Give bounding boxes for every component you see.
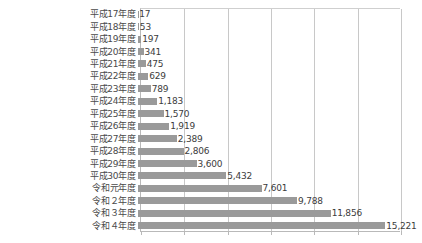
bar-value-label: 1,919 bbox=[170, 121, 195, 131]
bar bbox=[138, 85, 151, 92]
bar-container: 789 bbox=[138, 83, 422, 95]
chart-row: 平成29年度3,600 bbox=[0, 157, 422, 169]
chart-row: 令和２年度9,788 bbox=[0, 195, 422, 207]
chart-row: 令和４年度15,221 bbox=[0, 220, 422, 232]
bar-value-label: 3,600 bbox=[198, 159, 223, 169]
category-label: 平成26年度 bbox=[0, 121, 138, 131]
bar bbox=[138, 123, 169, 130]
category-label: 平成17年度 bbox=[0, 9, 138, 19]
bar-container: 3,600 bbox=[138, 157, 422, 169]
category-label: 平成30年度 bbox=[0, 171, 138, 181]
bar-value-label: 1,570 bbox=[165, 109, 190, 119]
chart-row: 平成19年度197 bbox=[0, 33, 422, 45]
category-label: 平成18年度 bbox=[0, 22, 138, 32]
bar bbox=[138, 148, 184, 155]
bar-container: 7,601 bbox=[138, 182, 422, 194]
bar bbox=[138, 172, 226, 179]
bar-value-label: 1,183 bbox=[158, 96, 183, 106]
bar-container: 1,919 bbox=[138, 120, 422, 132]
category-label: 平成29年度 bbox=[0, 159, 138, 169]
chart-rows: 平成17年度17平成18年度53平成19年度197平成20年度341平成21年度… bbox=[0, 8, 422, 232]
bar-value-label: 629 bbox=[149, 71, 166, 81]
bar-container: 475 bbox=[138, 58, 422, 70]
bar bbox=[138, 48, 144, 55]
chart-row: 平成23年度789 bbox=[0, 83, 422, 95]
bar-container: 9,788 bbox=[138, 195, 422, 207]
bar-container: 1,183 bbox=[138, 95, 422, 107]
category-label: 平成20年度 bbox=[0, 47, 138, 57]
category-label: 令和４年度 bbox=[0, 221, 138, 231]
bar bbox=[138, 36, 141, 43]
bar bbox=[138, 210, 331, 217]
bar-value-label: 2,806 bbox=[185, 146, 210, 156]
bar bbox=[138, 73, 148, 80]
chart-row: 平成27年度2,389 bbox=[0, 132, 422, 144]
bar-container: 2,389 bbox=[138, 132, 422, 144]
category-label: 平成19年度 bbox=[0, 34, 138, 44]
chart-row: 平成17年度17 bbox=[0, 8, 422, 20]
chart-row: 令和元年度7,601 bbox=[0, 182, 422, 194]
category-label: 平成28年度 bbox=[0, 146, 138, 156]
category-label: 令和３年度 bbox=[0, 208, 138, 218]
bar bbox=[138, 185, 262, 192]
bar-value-label: 9,788 bbox=[298, 196, 323, 206]
bar bbox=[138, 135, 177, 142]
bar bbox=[138, 60, 146, 67]
chart-row: 平成28年度2,806 bbox=[0, 145, 422, 157]
chart-row: 平成25年度1,570 bbox=[0, 108, 422, 120]
bar-container: 17 bbox=[138, 8, 422, 20]
chart-row: 平成20年度341 bbox=[0, 45, 422, 57]
bar bbox=[138, 160, 197, 167]
chart-row: 平成26年度1,919 bbox=[0, 120, 422, 132]
bar-value-label: 5,432 bbox=[227, 171, 252, 181]
chart-row: 令和３年度11,856 bbox=[0, 207, 422, 219]
bar-container: 2,806 bbox=[138, 145, 422, 157]
chart-row: 平成24年度1,183 bbox=[0, 95, 422, 107]
bar bbox=[138, 23, 139, 30]
bar bbox=[138, 197, 297, 204]
bar-container: 53 bbox=[138, 20, 422, 32]
bar-container: 5,432 bbox=[138, 170, 422, 182]
bar-container: 1,570 bbox=[138, 108, 422, 120]
category-label: 平成25年度 bbox=[0, 109, 138, 119]
bar-value-label: 2,389 bbox=[178, 134, 203, 144]
bar bbox=[138, 110, 164, 117]
category-label: 平成27年度 bbox=[0, 134, 138, 144]
chart-row: 平成30年度5,432 bbox=[0, 170, 422, 182]
bar-container: 629 bbox=[138, 70, 422, 82]
bar-value-label: 15,221 bbox=[386, 221, 416, 231]
category-label: 平成24年度 bbox=[0, 96, 138, 106]
chart-row: 平成21年度475 bbox=[0, 58, 422, 70]
bar-value-label: 11,856 bbox=[332, 208, 362, 218]
category-label: 平成21年度 bbox=[0, 59, 138, 69]
chart-row: 平成22年度629 bbox=[0, 70, 422, 82]
category-label: 平成23年度 bbox=[0, 84, 138, 94]
category-label: 令和元年度 bbox=[0, 183, 138, 193]
chart-row: 平成18年度53 bbox=[0, 20, 422, 32]
bar-value-label: 197 bbox=[142, 34, 159, 44]
bar-value-label: 17 bbox=[139, 9, 150, 19]
bar-value-label: 475 bbox=[147, 59, 164, 69]
bar bbox=[138, 98, 157, 105]
bar-value-label: 341 bbox=[145, 47, 162, 57]
bar-container: 197 bbox=[138, 33, 422, 45]
bar-value-label: 53 bbox=[140, 22, 151, 32]
bar-value-label: 789 bbox=[152, 84, 169, 94]
category-label: 令和２年度 bbox=[0, 196, 138, 206]
bar-container: 341 bbox=[138, 45, 422, 57]
bar-chart: 平成17年度17平成18年度53平成19年度197平成20年度341平成21年度… bbox=[0, 0, 422, 243]
bar-container: 11,856 bbox=[138, 207, 422, 219]
bar-container: 15,221 bbox=[138, 220, 422, 232]
category-label: 平成22年度 bbox=[0, 71, 138, 81]
bar-value-label: 7,601 bbox=[263, 183, 288, 193]
bar bbox=[138, 222, 385, 229]
